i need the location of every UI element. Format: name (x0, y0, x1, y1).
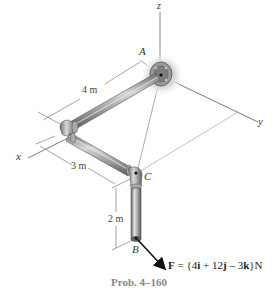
point-label-B: B (132, 243, 139, 255)
dim-3m-line-b (88, 168, 115, 184)
y-axis-label: y (258, 115, 263, 127)
pin-C (134, 171, 137, 174)
elbow-C (128, 167, 142, 188)
pin-A (159, 73, 162, 76)
dim-3m-line-a (40, 146, 72, 165)
x-axis (28, 138, 68, 158)
dimension-3m: 3 m (71, 160, 86, 171)
dim-4m-line-b (43, 99, 80, 120)
dim-4m-ext-b (38, 112, 62, 125)
z-axis-label: z (157, 0, 161, 11)
x-axis-label: x (16, 150, 21, 162)
force-arrow (137, 239, 164, 268)
point-label-C: C (144, 170, 151, 182)
pipe-segment-AD (70, 73, 160, 130)
point-label-A: A (139, 45, 146, 57)
construction-line-cy (139, 112, 238, 172)
dim-3m-ext-a (36, 136, 55, 144)
figure-caption: Prob. 4–160 (0, 276, 278, 288)
elbow-D (60, 120, 78, 136)
force-label: F = {4i + 12j – 3k}N (168, 259, 263, 271)
dimension-4m: 4 m (82, 84, 97, 95)
pipe-segment-CB (131, 188, 141, 242)
dim-4m-line-a (105, 62, 140, 84)
dimension-2m: 2 m (108, 213, 123, 224)
